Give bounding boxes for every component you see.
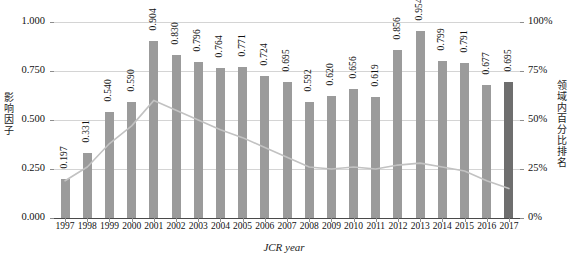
bar-value-label: 0.197: [59, 146, 69, 168]
x-axis-tick-mark: [376, 218, 377, 222]
bar-value-label: 0.954: [414, 0, 424, 20]
y-axis-left-tick-label: 0.000: [0, 211, 45, 222]
x-axis-title: JCR year: [0, 241, 568, 253]
x-axis-tick-mark: [354, 218, 355, 222]
bar-value-label: 0.796: [192, 29, 202, 51]
y-axis-right-tick-mark: [520, 218, 524, 219]
y-axis-right-tick-label: 100%: [528, 15, 568, 26]
x-axis-tick-mark: [198, 218, 199, 222]
bar-value-label: 0.830: [170, 22, 180, 44]
bar-value-label: 0.856: [392, 17, 402, 39]
impact-factor-chart: 影响因子 领域内百分比排名 JCR year 0.0000.2500.5000.…: [0, 0, 568, 269]
x-axis-tick-mark: [509, 218, 510, 222]
y-axis-left-tick-mark: [50, 169, 54, 170]
y-axis-right-tick-mark: [520, 120, 524, 121]
bar-value-label: 0.620: [325, 63, 335, 85]
y-axis-right-tick-mark: [520, 71, 524, 72]
x-axis-tick-mark: [287, 218, 288, 222]
y-axis-right-tick-label: 50%: [528, 113, 568, 124]
x-axis-tick-label: 2017: [494, 221, 524, 231]
x-axis-tick-mark: [176, 218, 177, 222]
x-axis-tick-mark: [398, 218, 399, 222]
y-axis-left-tick-mark: [50, 71, 54, 72]
bar-value-label: 0.656: [348, 56, 358, 78]
bar-value-label: 0.904: [148, 8, 158, 30]
y-axis-left-tick-label: 0.750: [0, 64, 45, 75]
bar-value-label: 0.771: [237, 34, 247, 56]
bar-value-label: 0.331: [81, 120, 91, 142]
bar-value-label: 0.695: [503, 49, 513, 71]
y-axis-left-tick-label: 0.250: [0, 162, 45, 173]
y-axis-left-tick-label: 1.000: [0, 15, 45, 26]
y-axis-right-tick-label: 0%: [528, 211, 568, 222]
y-axis-right-title: 领域内百分比排名: [555, 80, 566, 168]
y-axis-right-tick-mark: [520, 169, 524, 170]
y-axis-left-tick-mark: [50, 22, 54, 23]
x-axis-tick-mark: [420, 218, 421, 222]
bar-value-label: 0.619: [370, 64, 380, 86]
bar-value-label: 0.590: [126, 69, 136, 91]
bar-value-label: 0.695: [281, 49, 291, 71]
y-axis-left-tick-mark: [50, 120, 54, 121]
x-axis-tick-mark: [243, 218, 244, 222]
bar-value-label: 0.592: [303, 69, 313, 91]
x-axis-tick-mark: [465, 218, 466, 222]
x-axis-tick-mark: [487, 218, 488, 222]
x-axis-tick-mark: [220, 218, 221, 222]
y-axis-right-tick-label: 25%: [528, 162, 568, 173]
y-axis-left-tick-label: 0.500: [0, 113, 45, 124]
x-axis-tick-mark: [132, 218, 133, 222]
y-axis-right-tick-mark: [520, 22, 524, 23]
y-axis-left-tick-mark: [50, 218, 54, 219]
x-axis-tick-mark: [109, 218, 110, 222]
bar-value-label: 0.540: [103, 79, 113, 101]
x-axis-tick-mark: [87, 218, 88, 222]
x-axis-tick-mark: [442, 218, 443, 222]
x-axis-tick-mark: [331, 218, 332, 222]
bar-value-label: 0.791: [459, 30, 469, 52]
bar-value-label: 0.677: [481, 52, 491, 74]
x-axis-tick-mark: [154, 218, 155, 222]
bar-value-label: 0.764: [214, 35, 224, 57]
bar-value-label: 0.799: [436, 28, 446, 50]
x-axis-tick-mark: [309, 218, 310, 222]
bar-value-label: 0.724: [259, 43, 269, 65]
x-axis-tick-mark: [65, 218, 66, 222]
y-axis-right-tick-label: 75%: [528, 64, 568, 75]
x-axis-tick-mark: [265, 218, 266, 222]
